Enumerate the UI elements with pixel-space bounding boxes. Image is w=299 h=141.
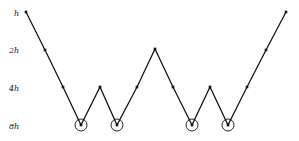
data-point-marker [80, 124, 83, 127]
data-point-marker [62, 86, 65, 89]
zigzag-polyline [26, 12, 286, 125]
zigzag-diagram: h2h4h8h [0, 0, 299, 141]
data-point-marker [227, 124, 230, 127]
data-point-marker [154, 48, 157, 51]
data-point-marker [246, 86, 249, 89]
data-point-marker [265, 49, 268, 52]
y-axis-tick-label: h [14, 9, 19, 18]
data-point-marker [136, 86, 139, 89]
y-axis-tick-label: 2h [8, 46, 19, 55]
y-axis-tick-label: 8h [9, 122, 19, 131]
data-point-marker [25, 11, 28, 14]
data-point-marker [285, 11, 288, 14]
data-point-marker [44, 49, 47, 52]
data-point-marker [172, 86, 175, 89]
data-point-markers [25, 11, 288, 127]
minima-highlight-circles [75, 119, 234, 131]
data-point-marker [209, 86, 212, 89]
data-point-marker [99, 86, 102, 89]
y-axis-tick-labels: h2h4h8h [8, 9, 19, 131]
data-point-marker [191, 124, 194, 127]
zigzag-line [26, 12, 286, 125]
data-point-marker [116, 124, 119, 127]
zigzag-plot-svg: h2h4h8h [0, 0, 299, 141]
y-axis-tick-label: 4h [8, 84, 19, 93]
